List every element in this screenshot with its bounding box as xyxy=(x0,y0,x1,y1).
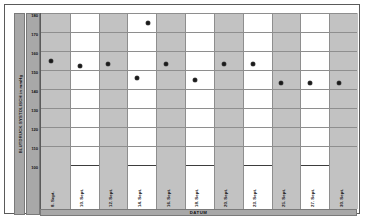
category-divider xyxy=(99,13,100,165)
gridline xyxy=(41,51,357,52)
y-axis-tick: 140 xyxy=(25,89,38,94)
gridline xyxy=(41,146,357,147)
category-label-text: 27. Sept. xyxy=(310,189,315,207)
category-axis: 8. Sept.10. Sept.12. Sept.14. Sept.16. S… xyxy=(40,165,357,209)
data-point xyxy=(337,81,341,85)
gridline xyxy=(41,32,357,33)
category-divider xyxy=(329,13,330,165)
data-point xyxy=(49,59,53,63)
category-label: 16. Sept. xyxy=(156,165,185,209)
category-label: 8. Sept. xyxy=(41,165,70,209)
plot-area xyxy=(40,13,357,165)
x-axis-title-label: DATUM xyxy=(190,210,208,215)
category-label-text: 16. Sept. xyxy=(166,189,171,207)
category-label-text: 18. Sept. xyxy=(194,189,199,207)
category-label-text: 25. Sept. xyxy=(281,189,286,207)
category-divider xyxy=(300,13,301,165)
category-label-text: 12. Sept. xyxy=(108,189,113,207)
category-label: 27. Sept. xyxy=(300,165,329,209)
y-axis-tick: 160 xyxy=(25,51,38,56)
data-point xyxy=(164,62,168,66)
data-point xyxy=(78,64,82,68)
y-axis-tick: 100 xyxy=(25,165,38,170)
y-axis-tick: 180 xyxy=(25,13,38,18)
category-divider xyxy=(156,13,157,165)
gridline xyxy=(41,70,357,71)
gridline xyxy=(41,127,357,128)
category-divider xyxy=(127,13,128,165)
data-point xyxy=(308,81,312,85)
category-label: 25. Sept. xyxy=(272,165,301,209)
category-label: 30. Sept. xyxy=(329,165,358,209)
data-point xyxy=(251,62,255,66)
x-axis-title: DATUM xyxy=(40,209,357,216)
data-point xyxy=(222,62,226,66)
y-axis-title: BLUTDRUCK SYSTOLISCH in mmHg xyxy=(14,13,25,215)
category-divider xyxy=(272,13,273,165)
category-label-text: 14. Sept. xyxy=(137,189,142,207)
category-label: 23. Sept. xyxy=(243,165,272,209)
y-axis-tick-labels: 180170160150140130120110100 xyxy=(26,13,40,215)
y-axis-tick: 120 xyxy=(25,127,38,132)
y-axis-tick: 130 xyxy=(25,108,38,113)
gridline xyxy=(41,13,357,14)
data-point xyxy=(146,21,150,25)
category-label: 10. Sept. xyxy=(70,165,99,209)
category-label: 20. Sept. xyxy=(214,165,243,209)
category-label-text: 30. Sept. xyxy=(339,189,344,207)
data-point xyxy=(106,62,110,66)
data-point xyxy=(279,81,283,85)
y-axis-title-label: BLUTDRUCK SYSTOLISCH in mmHg xyxy=(17,75,22,154)
category-label: 14. Sept. xyxy=(127,165,156,209)
y-axis-tick: 110 xyxy=(25,146,38,151)
category-divider xyxy=(214,13,215,165)
category-label-text: 20. Sept. xyxy=(223,189,228,207)
data-point xyxy=(193,78,197,82)
category-label-text: 8. Sept. xyxy=(50,191,55,207)
chart-frame: BLUTDRUCK SYSTOLISCH in mmHg 18017016015… xyxy=(4,4,360,214)
category-label-text: 23. Sept. xyxy=(252,189,257,207)
y-axis-tick: 150 xyxy=(25,70,38,75)
category-divider xyxy=(243,13,244,165)
gridline xyxy=(41,89,357,90)
category-label-text: 10. Sept. xyxy=(79,189,84,207)
category-divider xyxy=(70,13,71,165)
gridline xyxy=(41,108,357,109)
category-label: 18. Sept. xyxy=(185,165,214,209)
y-axis-tick: 170 xyxy=(25,32,38,37)
category-divider xyxy=(185,13,186,165)
category-label: 12. Sept. xyxy=(99,165,128,209)
data-point xyxy=(135,76,139,80)
